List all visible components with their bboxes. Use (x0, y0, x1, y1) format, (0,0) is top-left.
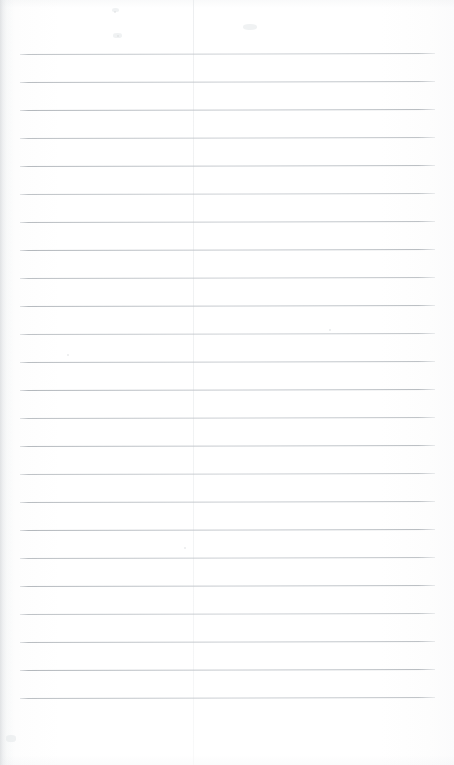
ruled-line (20, 389, 435, 391)
ruled-line (20, 221, 435, 223)
scanned-page (0, 0, 454, 765)
ruled-line (20, 277, 435, 279)
ruled-line (20, 361, 435, 363)
ruled-line (20, 137, 435, 139)
ruled-line (20, 585, 435, 587)
ruled-lines-group (0, 0, 454, 765)
scan-speckle (67, 354, 69, 356)
ruled-line (20, 193, 435, 195)
ruled-line (20, 501, 435, 503)
ruled-line (20, 557, 435, 559)
ruled-line (20, 697, 435, 699)
ruled-line (20, 305, 435, 307)
scan-speckle (329, 329, 331, 331)
ruled-line (20, 165, 435, 167)
ruled-line (20, 109, 435, 111)
ruled-line (20, 249, 435, 251)
ruled-line (20, 613, 435, 615)
ruled-line (20, 445, 435, 447)
ruled-line (20, 333, 435, 335)
scan-speckle (184, 547, 186, 549)
ruled-line (20, 417, 435, 419)
ruled-line (20, 529, 435, 531)
ruled-line (20, 669, 435, 671)
ruled-line (20, 641, 435, 643)
ruled-line (20, 53, 435, 55)
scan-smudge (243, 24, 257, 30)
ruled-line (20, 81, 435, 83)
scan-smudge (6, 735, 16, 742)
ruled-line (20, 473, 435, 475)
